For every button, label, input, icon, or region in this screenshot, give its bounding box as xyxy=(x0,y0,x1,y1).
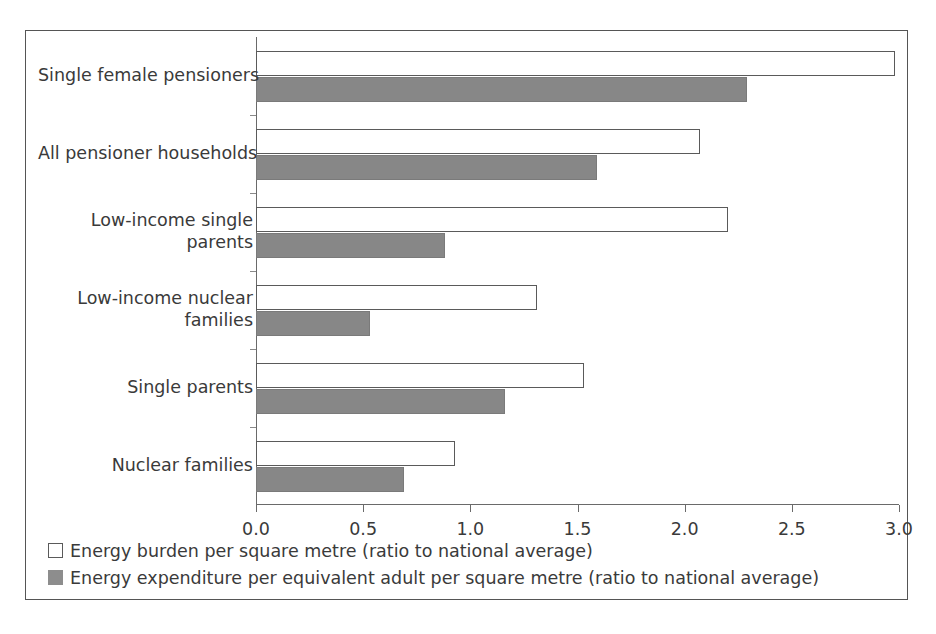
bar-energy-expenditure xyxy=(256,77,747,102)
category-axis-tick xyxy=(250,427,256,428)
bar-energy-burden xyxy=(256,363,584,388)
x-axis-tick xyxy=(578,505,579,512)
bar-energy-burden xyxy=(256,207,728,232)
category-axis-tick xyxy=(250,115,256,116)
category-label: Low-income nuclear families xyxy=(38,288,253,332)
legend-swatch-expenditure xyxy=(48,570,63,585)
x-axis-tick xyxy=(256,505,257,512)
bar-group: Single female pensioners xyxy=(256,37,899,115)
legend-label: Energy burden per square metre (ratio to… xyxy=(70,541,593,561)
x-axis-tick xyxy=(792,505,793,512)
bar-group: Low-income nuclear families xyxy=(256,271,899,349)
bar-group: Low-income single parents xyxy=(256,193,899,271)
bar-group: Single parents xyxy=(256,349,899,427)
bar-energy-expenditure xyxy=(256,155,597,180)
bar-energy-burden xyxy=(256,129,700,154)
category-axis-tick xyxy=(250,271,256,272)
x-axis-tick-label: 3.0 xyxy=(885,519,913,539)
bar-energy-expenditure xyxy=(256,233,445,258)
x-axis-tick xyxy=(685,505,686,512)
legend-item[interactable]: Energy expenditure per equivalent adult … xyxy=(48,564,888,591)
bar-energy-expenditure xyxy=(256,467,404,492)
chart-figure: 0.00.51.01.52.02.53.0 Single female pens… xyxy=(25,30,908,600)
x-axis-tick-label: 1.5 xyxy=(564,519,592,539)
category-label: Nuclear families xyxy=(38,455,253,477)
bar-group: All pensioner households xyxy=(256,115,899,193)
plot-area: 0.00.51.01.52.02.53.0 Single female pens… xyxy=(256,37,899,505)
category-label: Single female pensioners xyxy=(38,65,253,87)
x-axis-tick-label: 0.0 xyxy=(242,519,270,539)
category-label: All pensioner households xyxy=(38,143,253,165)
category-label: Low-income single parents xyxy=(38,210,253,254)
x-axis-tick-label: 0.5 xyxy=(349,519,377,539)
bar-energy-burden xyxy=(256,285,537,310)
category-label: Single parents xyxy=(38,377,253,399)
x-axis-tick-label: 2.0 xyxy=(671,519,699,539)
bar-group: Nuclear families xyxy=(256,427,899,505)
category-axis-tick xyxy=(250,349,256,350)
x-axis-tick-label: 1.0 xyxy=(456,519,484,539)
x-axis-tick xyxy=(470,505,471,512)
legend-swatch-burden xyxy=(48,543,63,558)
x-axis-tick xyxy=(363,505,364,512)
category-axis-tick xyxy=(250,193,256,194)
x-axis-tick-label: 2.5 xyxy=(778,519,806,539)
chart-legend: Energy burden per square metre (ratio to… xyxy=(48,537,888,591)
legend-item[interactable]: Energy burden per square metre (ratio to… xyxy=(48,537,888,564)
bar-energy-burden xyxy=(256,51,895,76)
x-axis-tick xyxy=(899,505,900,512)
bar-energy-expenditure xyxy=(256,311,370,336)
legend-label: Energy expenditure per equivalent adult … xyxy=(70,568,819,588)
bar-energy-burden xyxy=(256,441,455,466)
bar-energy-expenditure xyxy=(256,389,505,414)
